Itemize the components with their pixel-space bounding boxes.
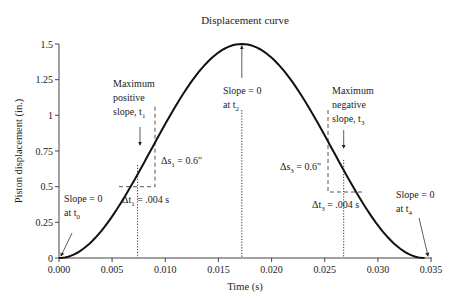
annotation-t1: Maximum positive slope, t1 bbox=[113, 78, 155, 120]
annotation-t4: Slope = 0 at t4 bbox=[396, 189, 434, 217]
annotation-t3: Maximum negative slope, t3 bbox=[332, 85, 374, 127]
x-tick-label: 0.005 bbox=[101, 264, 124, 275]
svg-text:slope, t3: slope, t3 bbox=[332, 113, 365, 127]
x-tick-label: 0.015 bbox=[207, 264, 230, 275]
arrow-t4 bbox=[419, 218, 428, 256]
y-tick-label: 1.25 bbox=[36, 74, 54, 85]
x-tick-label: 0.030 bbox=[367, 264, 390, 275]
svg-text:Slope = 0: Slope = 0 bbox=[223, 85, 261, 96]
svg-text:Slope = 0: Slope = 0 bbox=[396, 189, 434, 200]
svg-text:at t0: at t0 bbox=[64, 207, 81, 221]
annotation-ds1: Δs1 = 0.6" bbox=[161, 155, 202, 169]
x-tick-labels: 0.000 0.005 0.010 0.015 0.020 0.025 0.03… bbox=[48, 264, 443, 275]
x-tick-label: 0.020 bbox=[260, 264, 283, 275]
y-axis bbox=[55, 44, 59, 258]
y-tick-label: 0.5 bbox=[41, 181, 54, 192]
arrow-t0 bbox=[61, 233, 72, 256]
y-tick-label: 0.75 bbox=[36, 146, 54, 157]
svg-text:Δt1 = .004 s: Δt1 = .004 s bbox=[122, 194, 169, 208]
svg-text:positive: positive bbox=[113, 92, 145, 103]
annotation-dt3: Δt3 = .004 s bbox=[312, 199, 359, 213]
annotation-t0: Slope = 0 at t0 bbox=[64, 193, 102, 221]
chart-title: Displacement curve bbox=[201, 14, 289, 26]
y-tick-label: 1 bbox=[48, 110, 53, 121]
x-axis bbox=[59, 258, 432, 262]
svg-text:Slope = 0: Slope = 0 bbox=[64, 193, 102, 204]
svg-text:Δt3 = .004 s: Δt3 = .004 s bbox=[312, 199, 359, 213]
y-tick-label: 0.25 bbox=[36, 217, 54, 228]
displacement-chart: Displacement curve 1.5 1.25 1 0.75 0.5 0… bbox=[0, 0, 456, 304]
svg-text:slope, t1: slope, t1 bbox=[113, 106, 146, 120]
x-tick-label: 0.035 bbox=[420, 264, 443, 275]
annotation-t2: Slope = 0 at t2 bbox=[223, 85, 261, 113]
svg-text:Δs3 = 0.6": Δs3 = 0.6" bbox=[280, 161, 321, 175]
annotation-ds3: Δs3 = 0.6" bbox=[280, 161, 321, 175]
dotted-guides bbox=[138, 110, 344, 258]
x-tick-label: 0.000 bbox=[48, 264, 71, 275]
svg-text:negative: negative bbox=[332, 99, 366, 110]
y-tick-label: 0 bbox=[48, 253, 53, 264]
annotation-dt1: Δt1 = .004 s bbox=[122, 194, 169, 208]
svg-text:Maximum: Maximum bbox=[113, 78, 155, 89]
dashed-slope-boxes bbox=[119, 104, 365, 192]
y-axis-label: Piston displacement (in.) bbox=[13, 98, 25, 203]
svg-text:at t2: at t2 bbox=[223, 99, 240, 113]
x-tick-label: 0.025 bbox=[313, 264, 336, 275]
y-tick-label: 1.5 bbox=[41, 39, 54, 50]
svg-text:Δs1 = 0.6": Δs1 = 0.6" bbox=[161, 155, 202, 169]
svg-text:Maximum: Maximum bbox=[332, 85, 374, 96]
svg-text:at t4: at t4 bbox=[396, 203, 413, 217]
y-tick-labels: 1.5 1.25 1 0.75 0.5 0.25 0 bbox=[36, 39, 54, 264]
x-axis-label: Time (s) bbox=[227, 281, 263, 293]
x-tick-label: 0.010 bbox=[154, 264, 177, 275]
